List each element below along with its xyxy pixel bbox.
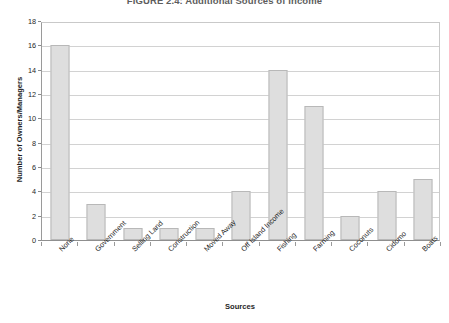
- bar-series: [42, 23, 439, 240]
- y-axis-tick-label: 6: [0, 164, 36, 172]
- bar[interactable]: [413, 179, 432, 240]
- y-axis-tick-label: 12: [0, 91, 36, 99]
- y-axis-tick-label: 2: [0, 213, 36, 221]
- x-axis-tick-mark: [295, 242, 296, 246]
- y-axis-tick-label: 4: [0, 188, 36, 196]
- x-axis-tick-mark: [150, 242, 151, 246]
- x-axis-tick-mark: [367, 242, 368, 246]
- bar-slot: [296, 23, 332, 240]
- bar-slot: [115, 23, 151, 240]
- bar-slot: [223, 23, 259, 240]
- x-axis-tick-mark: [77, 242, 78, 246]
- bar[interactable]: [87, 204, 106, 241]
- bar[interactable]: [305, 106, 324, 240]
- bar-slot: [187, 23, 223, 240]
- bar-slot: [151, 23, 187, 240]
- chart-title: FIGURE 2.4: Additional Sources of Income: [0, 0, 449, 5]
- x-axis-tick-mark: [114, 242, 115, 246]
- x-axis-tick-mark: [259, 242, 260, 246]
- y-axis-tick-label: 18: [0, 18, 36, 26]
- y-axis-tick-label: 10: [0, 115, 36, 123]
- y-axis-tick-label: 0: [0, 237, 36, 245]
- x-axis-tick-mark: [331, 242, 332, 246]
- y-axis-tick-label: 14: [0, 67, 36, 75]
- bar[interactable]: [51, 45, 70, 240]
- y-axis-tick-label: 8: [0, 140, 36, 148]
- bar-slot: [405, 23, 441, 240]
- bar-slot: [42, 23, 78, 240]
- figure-container: FIGURE 2.4: Additional Sources of Income…: [0, 0, 449, 323]
- x-axis-tick-mark: [41, 242, 42, 246]
- x-axis-tick-mark: [440, 242, 441, 246]
- bar-slot: [78, 23, 114, 240]
- plot-area: [41, 22, 440, 241]
- x-axis-tick-mark: [186, 242, 187, 246]
- bar-slot: [368, 23, 404, 240]
- bar[interactable]: [232, 191, 251, 240]
- bar-slot: [332, 23, 368, 240]
- bar[interactable]: [377, 191, 396, 240]
- y-axis-tick-label: 16: [0, 42, 36, 50]
- x-axis-tick-mark: [404, 242, 405, 246]
- y-axis-title: Number of Owners/Managers: [15, 60, 24, 200]
- x-axis-title: Sources: [40, 302, 440, 311]
- x-axis-tick-mark: [222, 242, 223, 246]
